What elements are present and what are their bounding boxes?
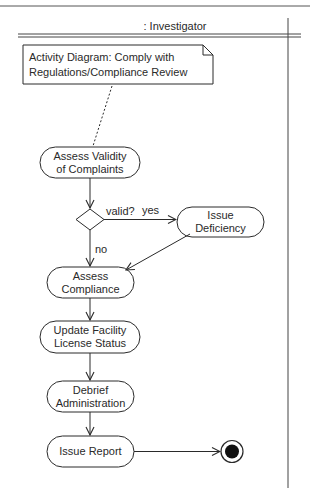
activity-update-license-label: Update Facility License Status	[40, 321, 140, 353]
decision-diamond[interactable]	[76, 209, 104, 230]
flow-deficiency-to-compliance	[126, 234, 190, 270]
swimlane-title: : Investigator	[100, 20, 250, 33]
decision-guard-label: valid?	[106, 205, 135, 218]
swimlane-header-divider	[18, 34, 301, 37]
activity-debrief-admin-label: Debrief Administration	[47, 381, 134, 412]
activity-issue-deficiency-label: Issue Deficiency	[177, 207, 264, 237]
note-anchor-line	[93, 86, 112, 146]
final-node-icon	[221, 441, 243, 463]
activity-issue-report-label: Issue Report	[47, 436, 134, 467]
note-line-1: Activity Diagram: Comply with	[29, 50, 187, 65]
note-text: Activity Diagram: Comply with Regulation…	[29, 50, 187, 80]
decision-yes-label: yes	[142, 204, 159, 217]
note-line-2: Regulations/Compliance Review	[29, 65, 187, 80]
activity-assess-compliance-label: Assess Compliance	[47, 267, 134, 298]
activity-assess-validity-label: Assess Validity of Complaints	[40, 147, 140, 178]
decision-no-label: no	[95, 243, 107, 256]
